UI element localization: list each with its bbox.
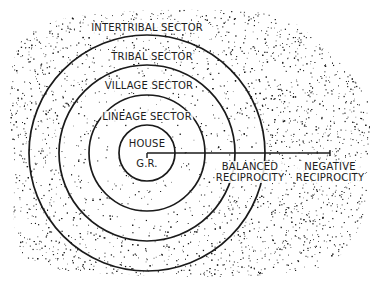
tribal-sector-label: TRIBAL SECTOR xyxy=(110,51,194,62)
village-sector-label: VILLAGE SECTOR xyxy=(104,80,194,91)
negative-reciprocity-label: NEGATIVE RECIPROCITY xyxy=(295,161,365,183)
balanced-reciprocity-label: BALANCED RECIPROCITY xyxy=(215,161,285,183)
negative-label-line1: NEGATIVE xyxy=(296,161,364,172)
gr-label: G.R. xyxy=(135,158,159,169)
balanced-label-line1: BALANCED xyxy=(216,161,284,172)
lineage-sector-label: LINEAGE SECTOR xyxy=(101,111,193,122)
negative-label-line2: RECIPROCITY xyxy=(296,172,364,183)
intertribal-sector-label: INTERTRIBAL SECTOR xyxy=(90,22,204,33)
stipple-texture xyxy=(0,0,379,299)
house-label: HOUSE xyxy=(128,138,166,149)
balanced-label-line2: RECIPROCITY xyxy=(216,172,284,183)
reciprocity-sector-diagram xyxy=(0,0,379,299)
